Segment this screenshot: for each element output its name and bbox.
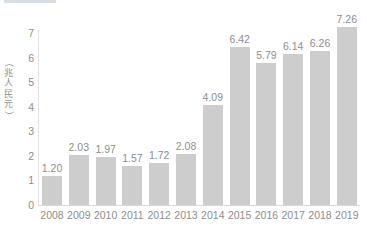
y-axis-label-char: 兆	[2, 68, 15, 79]
y-axis-tick-label: 3	[18, 126, 34, 137]
y-axis-tick-label: 0	[18, 200, 34, 211]
bar-value-label: 2.08	[169, 141, 203, 152]
y-axis-tick-label: 1	[18, 175, 34, 186]
y-axis-tick-label: 4	[18, 102, 34, 113]
bar[interactable]	[149, 163, 169, 205]
bar[interactable]	[42, 176, 62, 205]
bar-value-label: 6.26	[303, 38, 337, 49]
bar-value-label: 4.09	[196, 92, 230, 103]
y-axis-tick-label: 6	[18, 53, 34, 64]
bar-slot[interactable]: 1.20	[39, 29, 65, 205]
y-axis-label-char: ）	[3, 108, 14, 121]
bar-slot[interactable]: 5.79	[253, 29, 279, 205]
bar-slot[interactable]: 1.72	[146, 29, 172, 205]
y-axis-label: （兆人民元）	[2, 57, 15, 120]
bar-value-label: 6.42	[223, 34, 257, 45]
y-axis-label-char: 人	[2, 78, 15, 89]
bar-slot[interactable]: 4.09	[200, 29, 226, 205]
bar-slot[interactable]: 2.03	[66, 29, 92, 205]
bar[interactable]	[256, 63, 276, 205]
bar-slot[interactable]: 2.08	[173, 29, 199, 205]
y-axis-label-char: 民	[2, 89, 15, 100]
y-axis-tick-label: 5	[18, 77, 34, 88]
bar-chart: （兆人民元） 01234567 1.202.031.971.571.722.08…	[0, 0, 367, 235]
y-axis-label-char: （	[3, 56, 14, 69]
bar-value-label: 7.26	[330, 14, 364, 25]
y-axis-tick-label: 7	[18, 28, 34, 39]
bar[interactable]	[310, 51, 330, 205]
bar[interactable]	[203, 105, 223, 205]
bar-slot[interactable]: 6.26	[307, 29, 333, 205]
bar[interactable]	[122, 166, 142, 205]
bar-slot[interactable]: 7.26	[334, 29, 360, 205]
x-axis-tick-label: 2019	[330, 209, 364, 221]
bar-slot[interactable]: 1.57	[119, 29, 145, 205]
bar[interactable]	[283, 54, 303, 205]
bar[interactable]	[337, 27, 357, 205]
bar[interactable]	[230, 47, 250, 205]
x-axis-line	[38, 205, 360, 206]
bar[interactable]	[96, 157, 116, 205]
bar-slot[interactable]: 1.97	[93, 29, 119, 205]
bar[interactable]	[69, 155, 89, 205]
y-axis-tick-label: 2	[18, 151, 34, 162]
bar[interactable]	[176, 154, 196, 205]
bar-value-label: 1.20	[35, 163, 69, 174]
bar-slot[interactable]: 6.14	[280, 29, 306, 205]
